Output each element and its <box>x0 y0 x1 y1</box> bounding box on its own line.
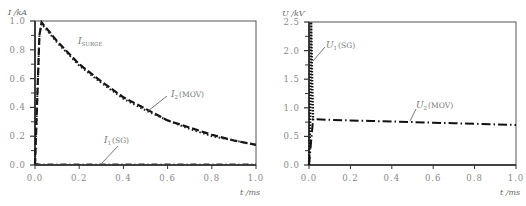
x-tick-label: 0.0 <box>301 173 318 183</box>
x-tick-label: 0.6 <box>425 173 442 183</box>
y-tick-label: 1.0 <box>9 16 26 26</box>
voltage-plot: 0.00.20.40.60.81.00.00.51.01.52.02.5U /k… <box>282 9 524 197</box>
series-line <box>35 22 256 165</box>
series-annotation: ISURGE <box>77 36 103 47</box>
x-tick-label: 0.2 <box>342 173 359 183</box>
y-tick-label: 2.0 <box>283 46 300 56</box>
chart-figure: 0.00.20.40.60.81.00.00.20.40.60.81.0I /k… <box>0 0 526 206</box>
x-tick-label: 0.8 <box>466 173 483 183</box>
x-tick-label: 0.8 <box>204 173 221 183</box>
current-plot: 0.00.20.40.60.81.00.00.20.40.60.81.0I /k… <box>0 0 264 197</box>
x-axis-label: t /ms <box>500 188 520 197</box>
series-annotation: U2(MOV) <box>416 100 453 111</box>
x-tick-label: 0.4 <box>384 173 401 183</box>
series-annotation: I1(SG) <box>103 135 129 146</box>
y-tick-label: 0.2 <box>9 131 26 141</box>
x-axis-label: t /ms <box>240 188 260 197</box>
plot-frame <box>35 21 256 165</box>
x-tick-label: 0.4 <box>115 173 132 183</box>
y-tick-label: 0.0 <box>9 160 26 170</box>
x-tick-label: 1.0 <box>248 173 265 183</box>
series-line <box>309 119 516 165</box>
y-tick-label: 0.8 <box>9 45 26 55</box>
y-axis-label: I /kA <box>7 8 27 17</box>
y-axis-label: U /kV <box>282 9 306 18</box>
y-tick-label: 0.6 <box>9 74 26 84</box>
x-tick-label: 0.0 <box>27 173 44 183</box>
y-tick-label: 0.4 <box>9 102 26 112</box>
x-tick-label: 0.2 <box>71 173 88 183</box>
series-annotation: U1(SG) <box>326 40 355 51</box>
y-tick-label: 1.5 <box>283 74 300 84</box>
x-tick-label: 1.0 <box>508 173 525 183</box>
y-tick-label: 0.5 <box>283 131 300 141</box>
series-annotation: I2(MOV) <box>170 89 204 100</box>
y-tick-label: 0.0 <box>283 160 300 170</box>
series-line <box>35 24 256 165</box>
x-tick-label: 0.6 <box>159 173 176 183</box>
y-tick-label: 2.5 <box>283 17 300 27</box>
y-tick-label: 1.0 <box>283 103 300 113</box>
